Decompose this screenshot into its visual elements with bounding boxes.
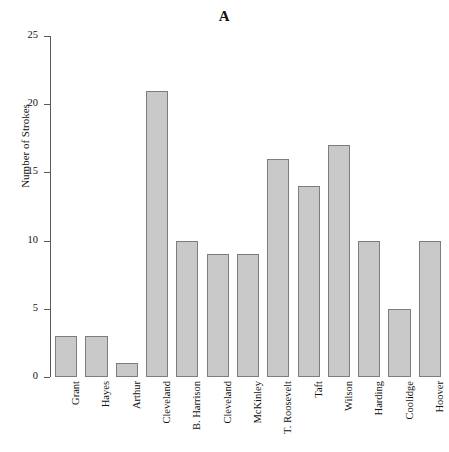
x-tick-label: Arthur [132, 381, 143, 409]
x-axis-labels: GrantHayesArthurClevelandB. HarrisonClev… [51, 379, 445, 452]
bars-layer [51, 36, 445, 377]
y-tick-label: 20 [4, 97, 38, 108]
x-tick-label: Coolidge [405, 381, 416, 420]
bar [237, 254, 259, 377]
x-label-slot: Hoover [415, 379, 445, 452]
x-label-slot: Wilson [324, 379, 354, 452]
bar [419, 241, 441, 377]
x-label-slot: T. Roosevelt [263, 379, 293, 452]
x-tick-label: Hayes [102, 381, 113, 407]
x-tick-label: Cleveland [223, 381, 234, 424]
bar [85, 336, 107, 377]
x-label-slot: Cleveland [142, 379, 172, 452]
y-tick-label: 25 [4, 29, 38, 40]
bar [358, 241, 380, 377]
x-label-slot: Hayes [81, 379, 111, 452]
bar [116, 363, 138, 377]
x-label-slot: Taft [293, 379, 323, 452]
bar [176, 241, 198, 377]
bar [328, 145, 350, 377]
x-label-slot: Cleveland [203, 379, 233, 452]
bar-chart-figure: A Number of Strokes 0510152025 GrantHaye… [0, 0, 449, 452]
y-tick-label: 15 [4, 165, 38, 176]
y-tick-mark [44, 309, 50, 310]
y-tick-mark [44, 104, 50, 105]
y-tick-mark [44, 172, 50, 173]
bar [207, 254, 229, 377]
x-label-slot: McKinley [233, 379, 263, 452]
x-label-slot: Arthur [112, 379, 142, 452]
x-label-slot: Grant [51, 379, 81, 452]
chart-title: A [0, 8, 449, 25]
y-tick-mark [44, 36, 50, 37]
y-tick-mark [44, 377, 50, 378]
y-tick-label: 0 [4, 370, 38, 381]
x-tick-label: Harding [374, 381, 385, 415]
x-tick-label: Hoover [435, 381, 446, 413]
y-tick-mark [44, 241, 50, 242]
x-tick-label: T. Roosevelt [284, 381, 295, 434]
y-tick-label: 10 [4, 234, 38, 245]
x-label-slot: B. Harrison [172, 379, 202, 452]
y-tick-label: 5 [4, 302, 38, 313]
x-label-slot: Harding [354, 379, 384, 452]
bar [146, 91, 168, 377]
bar [267, 159, 289, 377]
x-tick-label: B. Harrison [193, 381, 204, 430]
bar [55, 336, 77, 377]
x-label-slot: Coolidge [384, 379, 414, 452]
bar [298, 186, 320, 377]
x-tick-label: Taft [314, 381, 325, 398]
bar [388, 309, 410, 377]
